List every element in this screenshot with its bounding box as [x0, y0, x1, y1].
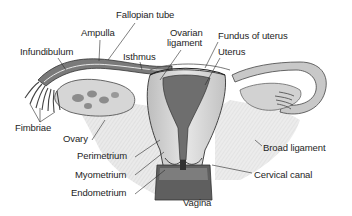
label-endometrium: Endometrium [71, 188, 126, 198]
label-myometrium: Myometrium [75, 170, 126, 180]
label-fundus-of-uterus: Fundus of uterus [218, 31, 288, 41]
anatomy-diagram: Fallopian tube Ampulla Ovarian ligament … [0, 0, 352, 216]
label-fimbriae: Fimbriae [15, 123, 51, 133]
label-broad-ligament: Broad ligament [263, 143, 326, 153]
label-cervical-canal: Cervical canal [254, 170, 312, 180]
label-infundibulum: Infundibulum [20, 47, 73, 57]
label-perimetrium: Perimetrium [77, 151, 127, 161]
label-vagina: Vagina [183, 198, 211, 208]
label-fallopian-tube: Fallopian tube [116, 10, 174, 20]
label-ovarian-ligament-line2: ligament [167, 38, 202, 48]
label-ampulla: Ampulla [81, 28, 115, 38]
label-isthmus: Isthmus [123, 52, 156, 62]
label-ovary: Ovary [63, 134, 88, 144]
label-uterus: Uterus [218, 47, 245, 57]
